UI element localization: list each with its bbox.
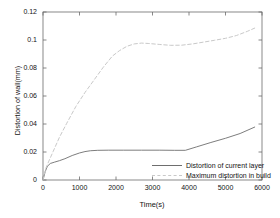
x-axis-title: Time(s) — [139, 200, 164, 209]
x-tick-label: 0 — [41, 184, 45, 192]
x-tick-label: 6000 — [254, 184, 270, 192]
x-tick-label: 3000 — [145, 184, 161, 192]
legend-swatch-current-layer — [152, 165, 182, 166]
y-tick-label: 0.04 — [0, 120, 37, 128]
legend-swatch-maximum-build — [152, 175, 182, 176]
legend-label-current-layer: Distortion of current layer — [186, 161, 264, 170]
series-line-1 — [43, 28, 255, 180]
y-tick-label: 0.06 — [0, 92, 37, 100]
x-tick-label: 2000 — [108, 184, 124, 192]
y-tick-label: 0.02 — [0, 148, 37, 156]
y-tick-label: 0.08 — [0, 64, 37, 72]
x-tick-label: 4000 — [181, 184, 197, 192]
y-tick-label: 0.12 — [0, 8, 37, 16]
legend-label-maximum-build: Maximum distortion in build — [186, 171, 271, 180]
x-tick-label: 1000 — [72, 184, 88, 192]
x-tick-label: 5000 — [218, 184, 234, 192]
y-tick-label: 0 — [0, 176, 37, 184]
y-tick-label: 0.1 — [0, 36, 37, 44]
chart-figure: Distortion of wall(mm) Time(s) 00.020.04… — [0, 0, 280, 218]
